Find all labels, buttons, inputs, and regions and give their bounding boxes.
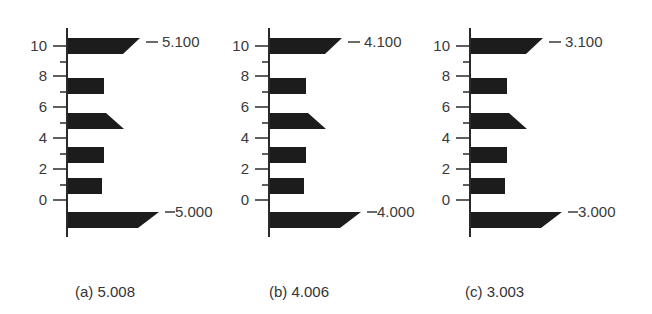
y-tick-label: 0: [39, 191, 47, 208]
top-pointer-bar: [68, 38, 140, 54]
y-tick-label: 10: [30, 37, 47, 54]
bottom-value-label: 4.000: [377, 203, 415, 220]
bar-2: [270, 178, 304, 194]
bar-2: [68, 178, 102, 194]
notch-bar-6: [270, 113, 326, 129]
bottom-value-label: 3.000: [578, 203, 616, 220]
bottom-pointer-bar: [471, 212, 562, 228]
caption-b: (b) 4.006: [269, 283, 329, 300]
bottom-value-label: 5.000: [175, 203, 213, 220]
panel-c: 02468103.1003.000: [433, 28, 615, 237]
y-tick-label: 2: [442, 160, 450, 177]
y-tick-label: 6: [442, 98, 450, 115]
y-tick-label: 8: [442, 67, 450, 84]
y-tick-label: 6: [241, 98, 249, 115]
y-tick-label: 4: [39, 129, 47, 146]
y-tick-label: 8: [39, 67, 47, 84]
top-value-label: 4.100: [364, 33, 402, 50]
y-tick-label: 0: [442, 191, 450, 208]
notch-bar-6: [68, 113, 124, 129]
y-tick-label: 6: [39, 98, 47, 115]
y-tick-label: 0: [241, 191, 249, 208]
y-tick-label: 4: [241, 129, 249, 146]
bar-8: [68, 78, 104, 94]
y-tick-label: 4: [442, 129, 450, 146]
figure-canvas: 02468105.1005.00002468104.1004.000024681…: [0, 0, 652, 314]
top-value-label: 5.100: [162, 33, 200, 50]
panel-b: 02468104.1004.000: [232, 28, 414, 237]
y-tick-label: 8: [241, 67, 249, 84]
caption-a: (a) 5.008: [75, 283, 135, 300]
bar-8: [270, 78, 306, 94]
top-pointer-bar: [471, 38, 543, 54]
panel-a: 02468105.1005.000: [30, 28, 212, 237]
bar-8: [471, 78, 507, 94]
notch-bar-6: [471, 113, 527, 129]
y-tick-label: 2: [39, 160, 47, 177]
bottom-pointer-bar: [68, 212, 159, 228]
caption-c: (c) 3.003: [465, 283, 524, 300]
top-pointer-bar: [270, 38, 342, 54]
top-value-label: 3.100: [565, 33, 603, 50]
y-tick-label: 10: [433, 37, 450, 54]
bar-4: [471, 147, 507, 163]
bar-4: [68, 147, 104, 163]
y-tick-label: 2: [241, 160, 249, 177]
bar-4: [270, 147, 306, 163]
bottom-pointer-bar: [270, 212, 361, 228]
bar-2: [471, 178, 505, 194]
y-tick-label: 10: [232, 37, 249, 54]
